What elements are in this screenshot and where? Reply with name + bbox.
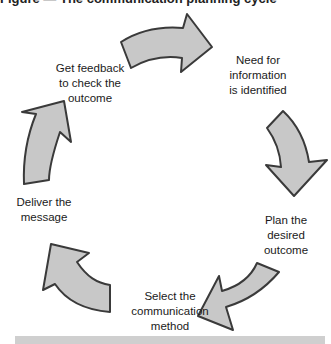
arrow-select-to-deliver-icon xyxy=(43,244,110,312)
step-feedback-label: Get feedback to check the outcome xyxy=(45,61,135,106)
arrow-need-to-plan-icon xyxy=(266,111,327,196)
step-select-label: Select the communication method xyxy=(120,289,220,334)
arrow-deliver-to-feedback-icon xyxy=(22,101,71,184)
step-plan-label: Plan the desired outcome xyxy=(251,213,321,258)
step-need-label: Need for information is identified xyxy=(218,53,298,98)
step-deliver-label: Deliver the message xyxy=(4,195,84,225)
bottom-caption-bar xyxy=(15,336,325,344)
